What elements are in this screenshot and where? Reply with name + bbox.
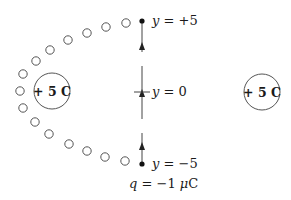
test-charge-label: q = −1 μC bbox=[129, 176, 198, 191]
line-gap bbox=[139, 52, 145, 66]
arrow-up-icon bbox=[139, 42, 145, 50]
path-marker-circle bbox=[83, 29, 91, 37]
path-marker-circle bbox=[122, 19, 130, 27]
arrow-up-icon bbox=[139, 89, 145, 97]
path-marker-circle bbox=[83, 147, 91, 155]
path-marker-circle bbox=[45, 130, 53, 138]
path-marker-circle bbox=[64, 36, 72, 44]
path-marker-circle bbox=[102, 23, 110, 31]
label-y-plus5: y = +5 bbox=[151, 13, 198, 28]
right-charge-label: + 5 C bbox=[243, 85, 281, 100]
label-y-zero: y = 0 bbox=[151, 84, 187, 99]
path-marker-circle bbox=[121, 157, 129, 165]
top-point-dot bbox=[139, 18, 144, 23]
bottom-point-dot bbox=[139, 161, 144, 166]
left-charge-label: + 5 C bbox=[33, 84, 71, 99]
electrostatics-diagram: y = +5 y = 0 y = −5 q = −1 μC + 5 C + 5 … bbox=[0, 0, 291, 200]
path-marker-circle bbox=[31, 118, 39, 126]
path-marker-circle bbox=[19, 104, 27, 112]
path-marker-circle bbox=[65, 140, 73, 148]
path-marker-circle bbox=[46, 46, 54, 54]
arrow-up-icon bbox=[139, 142, 145, 150]
path-marker-circle bbox=[16, 87, 24, 95]
line-gap bbox=[139, 119, 145, 133]
label-y-minus5: y = −5 bbox=[151, 156, 198, 171]
path-marker-circle bbox=[19, 70, 27, 78]
path-marker-circle bbox=[101, 153, 109, 161]
path-marker-circle bbox=[32, 57, 40, 65]
